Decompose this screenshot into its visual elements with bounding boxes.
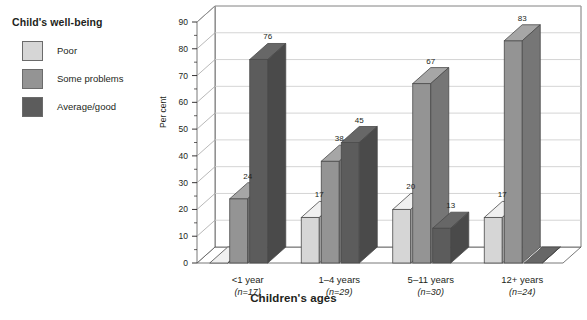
bar-some-problems-3 (504, 25, 540, 263)
x-axis-title: Children's ages (0, 292, 587, 304)
y-tick-label: 70 (179, 71, 189, 81)
bar-value-label: 83 (518, 14, 527, 23)
chart-figure: Child's well-being Poor Some problems Av… (0, 0, 587, 320)
bar-value-label: 67 (426, 57, 435, 66)
y-tick-label: 90 (179, 17, 189, 27)
bar-value-label: 17 (315, 190, 324, 199)
y-tick-label: 60 (179, 97, 189, 107)
x-category-label: 1–4 years (318, 274, 360, 285)
y-tick-label: 40 (179, 151, 189, 161)
bar-value-label: 20 (406, 182, 415, 191)
y-tick-label: 50 (179, 124, 189, 134)
bar-value-label: 76 (263, 32, 272, 41)
bar-value-label: 17 (498, 190, 507, 199)
y-tick-label: 20 (179, 204, 189, 214)
y-tick-label: 30 (179, 178, 189, 188)
y-tick-label: 0 (183, 258, 188, 268)
y-tick-label: 10 (179, 231, 189, 241)
x-category-label: <1 year (232, 274, 264, 285)
x-category-label: 12+ years (501, 274, 543, 285)
bar-average-good-1 (341, 127, 377, 264)
bar-value-label: 24 (243, 172, 252, 181)
chart-plot-area: 0102030405060708090 24761738452067131783… (0, 0, 587, 320)
y-axis-ticks: 0102030405060708090 (179, 17, 197, 268)
bar-average-good-0 (250, 43, 286, 263)
y-tick-label: 80 (179, 44, 189, 54)
x-category-label: 5–11 years (408, 274, 455, 285)
bar-value-label: 13 (446, 201, 455, 210)
bar-value-label: 38 (335, 134, 344, 143)
bar-value-label: 45 (355, 116, 364, 125)
